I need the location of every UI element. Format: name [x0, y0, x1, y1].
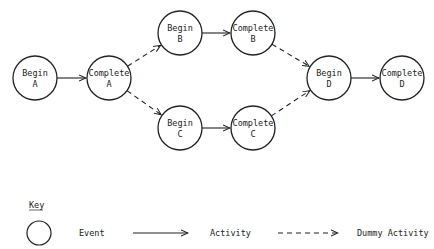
event-circle-icon	[380, 56, 424, 100]
dummy-activity-arrow-completeC-beginD	[271, 91, 309, 116]
node-label: B	[250, 34, 255, 44]
node-label: D	[326, 79, 331, 89]
network-diagram: BeginACompleteABeginBCompleteBBeginCComp…	[0, 0, 434, 249]
key-title: Key	[29, 200, 44, 210]
node-label: C	[250, 129, 255, 139]
node-label: C	[177, 129, 182, 139]
dummy-activity-arrow-completeA-beginB	[128, 45, 161, 66]
node-label: Complete	[382, 68, 423, 78]
node-label: Begin	[167, 23, 193, 33]
event-node-completeA: CompleteA	[87, 56, 131, 100]
node-label: D	[399, 79, 404, 89]
event-node-beginA: BeginA	[13, 56, 57, 100]
node-label: Complete	[89, 68, 130, 78]
event-circle-icon	[13, 56, 57, 100]
dummy-activity-arrow-completeB-beginD	[272, 44, 309, 66]
event-circle-icon	[158, 106, 202, 150]
event-symbol-icon	[27, 221, 51, 245]
node-label: A	[106, 79, 111, 89]
node-label: Complete	[233, 118, 274, 128]
event-circle-icon	[87, 56, 131, 100]
node-label: Begin	[167, 118, 193, 128]
key-dummy-label: Dummy Activity	[357, 228, 429, 238]
node-label: Complete	[233, 23, 274, 33]
event-circle-icon	[307, 56, 351, 100]
nodes: BeginACompleteABeginBCompleteBBeginCComp…	[13, 11, 424, 150]
event-node-completeD: CompleteD	[380, 56, 424, 100]
dummy-activity-arrow-completeA-beginC	[127, 91, 161, 115]
event-node-beginB: BeginB	[158, 11, 202, 55]
node-label: A	[32, 79, 37, 89]
event-node-completeB: CompleteB	[231, 11, 275, 55]
event-node-beginD: BeginD	[307, 56, 351, 100]
node-label: B	[177, 34, 182, 44]
node-label: Begin	[316, 68, 342, 78]
key-event-label: Event	[79, 228, 105, 238]
event-circle-icon	[231, 11, 275, 55]
key-activity-label: Activity	[210, 228, 251, 238]
event-circle-icon	[231, 106, 275, 150]
event-node-beginC: BeginC	[158, 106, 202, 150]
legend: Key Event Activity Dummy Activity	[27, 200, 429, 245]
node-label: Begin	[22, 68, 48, 78]
event-circle-icon	[158, 11, 202, 55]
event-node-completeC: CompleteC	[231, 106, 275, 150]
